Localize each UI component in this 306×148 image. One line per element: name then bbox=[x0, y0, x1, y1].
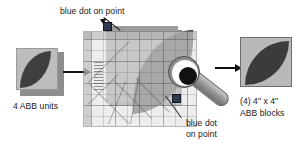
callout-bottom-label-line2: on point bbox=[186, 129, 217, 139]
cutter-blade bbox=[179, 67, 197, 85]
block-face bbox=[240, 37, 292, 87]
callout-bottom-label-line1: blue dot bbox=[186, 118, 217, 128]
cutter-ring bbox=[172, 60, 198, 86]
diagram-canvas: 4 ABB units bbox=[0, 0, 306, 148]
step-output-label-line1: (4) 4" x 4" bbox=[240, 96, 278, 106]
leaf-patch-icon bbox=[245, 41, 289, 85]
step-output-label-line2: ABB blocks bbox=[240, 108, 284, 118]
cutter-hub bbox=[168, 56, 200, 88]
callout-top-label: blue dot on point bbox=[60, 6, 124, 16]
step-input-label: 4 ABB units bbox=[13, 101, 58, 111]
leaf-patch-icon bbox=[20, 51, 51, 88]
abb-unit-block bbox=[16, 48, 64, 96]
ruler-fine-print bbox=[94, 60, 103, 90]
block-face bbox=[16, 48, 58, 90]
abb-finished-block bbox=[240, 37, 296, 91]
